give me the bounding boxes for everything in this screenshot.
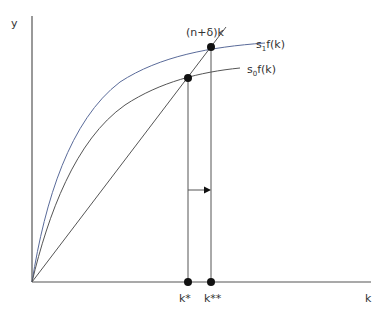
depreciation-line-label: (n+δ)k [186, 27, 224, 38]
arrowhead-icon [204, 187, 211, 194]
s0-curve-label: s0f(k) [247, 64, 276, 78]
depreciation-line [32, 27, 226, 282]
s0-fk-curve [32, 68, 240, 282]
s1-curve-label: s1f(k) [256, 39, 285, 53]
kstarstar-axis-dot [207, 278, 215, 286]
s1-fk-curve [32, 43, 265, 282]
kstar-label: k* [179, 293, 191, 304]
y-axis-label: y [11, 18, 18, 29]
x-axis-label: k [365, 293, 371, 304]
kstar-axis-dot [184, 278, 192, 286]
solow-diagram [0, 0, 387, 314]
steady-state-dot-1 [184, 74, 192, 82]
kstarstar-label: k** [204, 293, 221, 304]
steady-state-dot-2 [207, 43, 215, 51]
